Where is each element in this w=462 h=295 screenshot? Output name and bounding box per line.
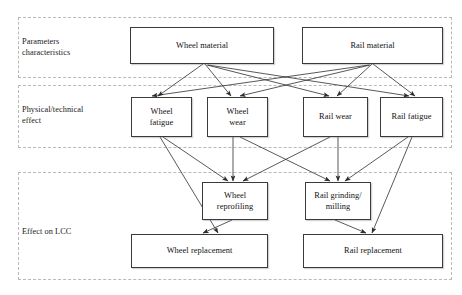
node-rail-grinding-milling[interactable]: Rail grinding/ milling (305, 182, 371, 220)
node-rail-wear[interactable]: Rail wear (303, 97, 368, 137)
panel-effect-on-lcc-label: Effect on LCC (22, 226, 71, 237)
node-wheel-wear[interactable]: Wheel wear (207, 97, 268, 137)
diagram-canvas: Parameters characteristics Physical/tech… (0, 0, 462, 295)
node-rail-material[interactable]: Rail material (302, 27, 443, 64)
node-rail-fatigue[interactable]: Rail fatigue (380, 97, 443, 137)
node-wheel-material[interactable]: Wheel material (130, 27, 274, 64)
panel-physical-technical-label: Physical/technical effect (22, 104, 83, 126)
node-wheel-fatigue[interactable]: Wheel fatigue (131, 97, 192, 137)
panel-parameters-label: Parameters characteristics (22, 36, 70, 58)
node-rail-replacement[interactable]: Rail replacement (303, 234, 443, 268)
node-wheel-replacement[interactable]: Wheel replacement (131, 234, 268, 268)
node-wheel-reprofiling[interactable]: Wheel reprofiling (202, 182, 268, 220)
